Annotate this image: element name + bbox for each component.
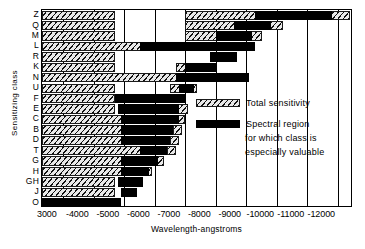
y-tick-U: U: [14, 83, 39, 92]
chart-root: Sensitizing class ZQMLRKNUFECBDTGHGHJO T…: [0, 0, 365, 249]
total-sensitivity-bar-M-0: [42, 31, 115, 40]
spectral-region-bar-L-0: [140, 42, 256, 51]
y-tick-J: J: [14, 187, 39, 196]
bar-row-J: [42, 188, 351, 197]
x-tick-9000: -9000: [219, 209, 242, 219]
spectral-region-bar-M-0: [216, 31, 253, 40]
x-tick-8000: -8000: [188, 209, 211, 219]
spectral-region-bar-D-0: [121, 136, 170, 145]
y-tick-G: G: [14, 156, 39, 165]
y-tick-B: B: [14, 125, 39, 134]
total-sensitivity-bar-E-0: [42, 104, 115, 113]
y-tick-K: K: [14, 62, 39, 71]
y-tick-N: N: [14, 73, 39, 82]
y-tick-F: F: [14, 94, 39, 103]
bar-row-M: [42, 31, 351, 40]
x-tick-4000: -4000: [66, 209, 89, 219]
spectral-region-bar-K-0: [185, 63, 215, 72]
legend-swatch-total-sensitivity: [196, 99, 240, 107]
legend-label-spectral-3: especially valuable: [245, 147, 324, 157]
x-tick-11000: -11000: [277, 209, 304, 219]
bar-row-R: [42, 52, 351, 61]
bar-row-O: [42, 198, 351, 207]
x-tick-12000: -12000: [308, 209, 335, 219]
x-axis-tick-labels: 3000-4000-5000-6000-7000-8000-9000-10000…: [41, 209, 352, 221]
total-sensitivity-bar-D-0: [42, 136, 124, 145]
spectral-region-bar-B-0: [121, 125, 173, 134]
y-tick-H: H: [14, 167, 39, 176]
total-sensitivity-bar-T-1: [167, 146, 176, 155]
y-tick-Q: Q: [14, 21, 39, 30]
total-sensitivity-bar-H-0: [42, 167, 124, 176]
y-tick-R: R: [14, 52, 39, 61]
total-sensitivity-bar-Z-0: [42, 11, 115, 20]
legend-label-spectral-2: for which class is: [245, 133, 317, 143]
y-tick-M: M: [14, 31, 39, 40]
spectral-region-bar-Z-0: [255, 11, 331, 20]
x-tick-6000: -6000: [127, 209, 150, 219]
spectral-region-bar-T-0: [140, 146, 167, 155]
bar-row-N: [42, 73, 351, 82]
total-sensitivity-bar-T-0: [42, 146, 143, 155]
y-tick-T: T: [14, 146, 39, 155]
bar-row-Z: [42, 11, 351, 20]
bar-row-U: [42, 84, 351, 93]
total-sensitivity-bar-B-1: [173, 125, 182, 134]
total-sensitivity-bar-GH-0: [42, 177, 115, 186]
total-sensitivity-bar-F-0: [42, 94, 115, 103]
x-tick-5000: -5000: [97, 209, 120, 219]
y-tick-E: E: [14, 104, 39, 113]
spectral-region-bar-R-0: [210, 52, 237, 61]
spectral-region-bar-N-0: [176, 73, 249, 82]
spectral-region-bar-O-0: [42, 198, 121, 207]
x-axis-title: Wavelength-angstroms: [41, 224, 352, 234]
total-sensitivity-bar-K-0: [42, 63, 115, 72]
total-sensitivity-bar-U-0: [42, 84, 115, 93]
total-sensitivity-bar-N-0: [42, 73, 182, 82]
total-sensitivity-bar-L-0: [42, 42, 149, 51]
bar-row-H: [42, 167, 351, 176]
spectral-region-bar-F-0: [115, 94, 185, 103]
bar-row-L: [42, 42, 351, 51]
spectral-region-bar-Q-0: [234, 21, 271, 30]
total-sensitivity-bar-Q-0: [42, 21, 115, 30]
spectral-region-bar-U-0: [179, 84, 194, 93]
y-tick-D: D: [14, 135, 39, 144]
x-tick-3000: 3000: [37, 209, 57, 219]
legend-swatch-spectral-region: [196, 120, 240, 128]
y-tick-O: O: [14, 198, 39, 207]
total-sensitivity-bar-G-0: [42, 156, 124, 165]
bar-row-GH: [42, 177, 351, 186]
spectral-region-bar-GH-0: [118, 177, 142, 186]
bar-row-K: [42, 63, 351, 72]
y-tick-C: C: [14, 114, 39, 123]
total-sensitivity-bar-C-0: [42, 115, 124, 124]
bar-row-Q: [42, 21, 351, 30]
legend-entry-total: Total sensitivity: [196, 98, 310, 108]
y-tick-Z: Z: [14, 10, 39, 19]
x-tick-10000: -10000: [247, 209, 274, 219]
total-sensitivity-bar-D-1: [170, 136, 179, 145]
y-tick-L: L: [14, 41, 39, 50]
legend-label-spectral-1: Spectral region: [246, 119, 310, 129]
y-axis-category-labels: ZQMLRKNUFECBDTGHGHJO: [14, 10, 39, 206]
x-tick-7000: -7000: [158, 209, 181, 219]
legend-label-total: Total sensitivity: [246, 98, 310, 108]
spectral-region-bar-C-0: [121, 115, 179, 124]
legend-entry-spectral: Spectral region: [196, 119, 310, 129]
total-sensitivity-bar-R-0: [42, 52, 115, 61]
y-tick-GH: GH: [14, 177, 39, 186]
spectral-region-bar-H-0: [121, 167, 148, 176]
spectral-region-bar-G-0: [121, 156, 158, 165]
spectral-region-bar-J-0: [121, 188, 136, 197]
total-sensitivity-bar-B-0: [42, 125, 124, 134]
total-sensitivity-bar-J-0: [42, 188, 115, 197]
spectral-region-bar-E-0: [118, 104, 179, 113]
legend: Total sensitivity Spectral region for wh…: [196, 98, 346, 164]
